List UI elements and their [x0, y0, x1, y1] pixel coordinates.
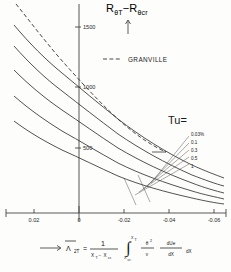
formula-theta-sup: 2 — [150, 239, 152, 243]
chart-svg: 0.02 0 -0.02 -0.04 -0.06 1500 1000 500 R… — [0, 0, 231, 272]
tu-value-labels: 0.03% 0.1 0.3 0.5 1 — [191, 132, 204, 169]
tu-value-4: 1 — [191, 164, 194, 169]
figure-root: 0.02 0 -0.02 -0.04 -0.06 1500 1000 500 R… — [0, 0, 231, 272]
formula-den-minus: − — [99, 253, 102, 258]
tu-value-3: 0.5 — [191, 156, 198, 161]
title-r2: R — [129, 2, 137, 14]
legend: GRANVILLE — [103, 56, 167, 63]
x-tick-label-0: 0.02 — [29, 217, 40, 223]
formula-equals: = — [83, 245, 87, 252]
axes-group — [6, 4, 226, 221]
formula-due: dUe — [167, 241, 176, 246]
series-curves — [14, 4, 224, 204]
formula-dx: dX — [186, 249, 192, 254]
title-r1: R — [106, 2, 114, 14]
x-tick-label-1: 0 — [77, 217, 80, 223]
y-tick-label-1500: 1500 — [83, 24, 95, 30]
formula-numerator: 1 — [101, 240, 105, 247]
x-tick-label-3: -0.04 — [163, 217, 176, 223]
tu-group-label: Tu= — [168, 114, 187, 126]
y-axis-title: RθT−Rθcr — [106, 2, 148, 34]
leader-bracket-right — [138, 175, 150, 202]
formula-den-x1: X — [91, 253, 94, 258]
formula-theta: θ — [146, 241, 149, 246]
formula-lambda: Λ — [66, 245, 71, 252]
x-tick-label-2: -0.02 — [118, 217, 131, 223]
formula-lambda-sub: 2T — [74, 249, 80, 254]
tu-value-0: 0.03% — [191, 132, 204, 137]
tu-value-1: 0.1 — [191, 140, 198, 145]
title-minus: − — [123, 2, 130, 14]
formula-nu: ν — [146, 252, 149, 257]
leader-line-3 — [139, 157, 189, 192]
x-tick-marks — [34, 206, 214, 213]
tu-value-2: 0.3 — [191, 148, 198, 153]
title-sub2: θcr — [138, 9, 149, 16]
formula-block: Λ 2T = 1 X T − X cr. ∫ X T X cr. θ 2 ν d… — [40, 236, 192, 262]
formula-lower-limit-sub: cr. — [128, 258, 132, 262]
legend-label-granville: GRANVILLE — [128, 56, 167, 63]
formula-dx-den: dX — [168, 252, 174, 257]
formula-den-x2: X — [104, 253, 107, 258]
y-tick-label-1000: 1000 — [83, 84, 95, 90]
y-axis-title-text: RθT−Rθcr — [106, 2, 148, 16]
formula-den-x2-sub: cr. — [108, 256, 112, 260]
formula-upper-limit-sub: T — [135, 238, 138, 242]
x-tick-label-4: -0.06 — [208, 217, 221, 223]
x-tick-labels: 0.02 0 -0.02 -0.04 -0.06 — [29, 217, 221, 223]
